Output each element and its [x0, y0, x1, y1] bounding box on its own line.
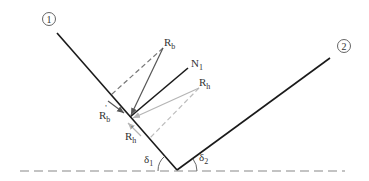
surface-1-line	[57, 33, 177, 170]
rb-dashed-projection	[111, 48, 163, 95]
svg-text:1: 1	[47, 14, 52, 25]
delta2-arc	[193, 159, 197, 171]
delta1-arc	[158, 156, 165, 171]
surface-2-marker: 2	[338, 40, 351, 53]
normal-vector-n1	[130, 68, 188, 117]
label-rb: Rb	[164, 36, 175, 51]
label-rh: Rh	[199, 76, 210, 91]
label-rb-prime: Rb'	[99, 104, 110, 124]
label-rh-prime: Rh'	[125, 125, 136, 145]
surface-1-marker: 1	[43, 13, 56, 26]
label-n1: N1	[191, 57, 203, 72]
label-delta2: δ2	[199, 151, 208, 166]
rb-vector	[131, 48, 163, 115]
force-decomposition-diagram: 1 2 Rb N1 Rh Rb' Rh' δ1 δ2	[0, 0, 369, 181]
svg-text:2: 2	[342, 41, 347, 52]
label-delta1: δ1	[144, 153, 153, 168]
rh-vector	[133, 88, 199, 118]
